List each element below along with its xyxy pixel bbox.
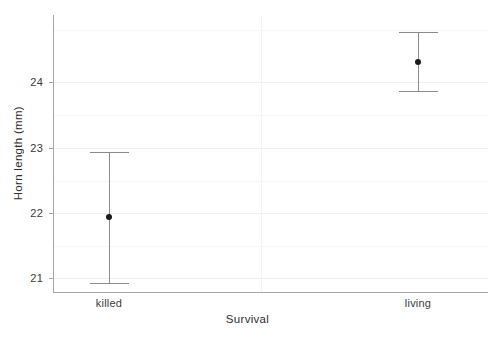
- y-tick-label-24: 24: [30, 76, 43, 88]
- gridline-minor-24p5: [53, 30, 488, 31]
- gridline-major-22: [53, 213, 488, 214]
- y-tick-label-23: 23: [30, 142, 43, 154]
- x-axis-line: [53, 292, 488, 293]
- y-axis-line: [53, 15, 54, 293]
- plot-area: [53, 15, 488, 292]
- errorbar-cap-upper-living: [399, 32, 438, 33]
- y-tick-label-22: 22: [30, 207, 43, 219]
- gridline-minor-23p5: [53, 115, 488, 116]
- chart-figure: Horn length (mm): [0, 0, 495, 337]
- y-tick-label-21: 21: [30, 272, 43, 284]
- y-axis-title-text: Horn length (mm): [12, 106, 24, 200]
- errorbar-cap-lower-killed: [90, 283, 129, 284]
- gridline-major-21: [53, 278, 488, 279]
- errorbar-cap-lower-living: [399, 91, 438, 92]
- gridline-major-23: [53, 148, 488, 149]
- errorbar-cap-upper-killed: [90, 152, 129, 153]
- gridline-minor-22p5: [53, 181, 488, 182]
- data-point-killed: [106, 214, 112, 220]
- data-point-living: [415, 59, 421, 65]
- x-tick-label-living: living: [405, 297, 431, 309]
- y-axis-title: Horn length (mm): [8, 0, 28, 307]
- gridline-major-24: [53, 82, 488, 83]
- x-tick-label-killed: killed: [96, 297, 122, 309]
- x-axis-title: Survival: [0, 313, 495, 325]
- gridline-minor-21p5: [53, 246, 488, 247]
- gridline-vertical-mid: [261, 15, 262, 292]
